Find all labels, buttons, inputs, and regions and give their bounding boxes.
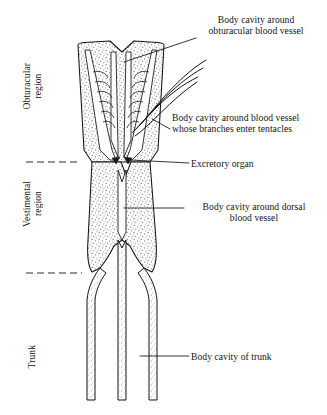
callout-tentacle-blood-vessel: Body cavity around blood vessel whose br… xyxy=(172,112,327,135)
callout-excretory-organ: Excretory organ xyxy=(191,158,321,169)
callout-trunk-body-cavity: Body cavity of trunk xyxy=(191,351,321,362)
region-label-vestimental: Vestimental region xyxy=(22,181,43,227)
region-label-trunk: Trunk xyxy=(27,345,38,368)
callout-obturacular-blood-vessel: Body cavity around obturacular blood ves… xyxy=(187,14,325,37)
callout-dorsal-blood-vessel: Body cavity around dorsal blood vessel xyxy=(186,201,322,224)
anatomical-figure: Obturacular region Vestimental region Tr… xyxy=(0,0,327,415)
region-label-obturacular: Obturacular region xyxy=(22,63,43,109)
